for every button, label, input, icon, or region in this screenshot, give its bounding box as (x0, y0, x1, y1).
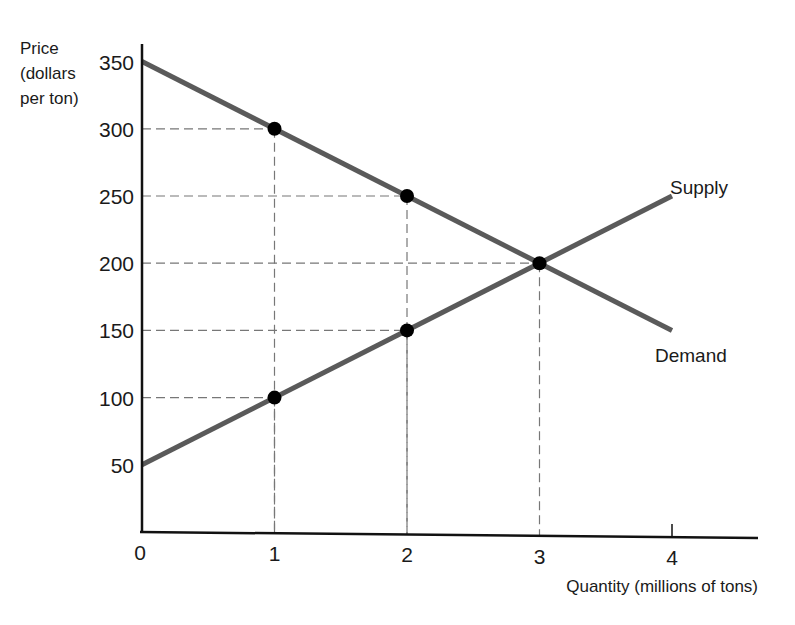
y-tick-label: 350 (99, 51, 134, 74)
supply-label: Supply (670, 177, 729, 198)
data-point (400, 189, 414, 203)
y-tick-label: 50 (111, 454, 134, 477)
y-axis-label-line3: per ton) (20, 89, 79, 108)
x-axis-label: Quantity (millions of tons) (566, 577, 758, 596)
y-tick-label: 100 (99, 387, 134, 410)
y-axis-label-line1: Price (20, 39, 59, 58)
x-tick-label: 1 (269, 542, 281, 565)
data-point (268, 122, 282, 136)
y-tick-label: 150 (99, 319, 134, 342)
dashed-guide-lines (142, 129, 540, 536)
y-axis-label-line2: (dollars (20, 64, 76, 83)
data-point (268, 391, 282, 405)
demand-label: Demand (655, 345, 727, 366)
axes (140, 44, 758, 538)
x-axis (140, 532, 758, 538)
y-tick-label: 250 (99, 185, 134, 208)
y-tick-label: 200 (99, 252, 134, 275)
x-tick-label: 2 (401, 543, 413, 566)
x-tick-label: 4 (666, 546, 678, 569)
x-tick-label: 0 (134, 541, 146, 564)
data-point (400, 323, 414, 337)
data-point (533, 256, 547, 270)
x-tick-label: 3 (534, 545, 546, 568)
y-tick-label: 300 (99, 118, 134, 141)
supply-demand-chart: 5010015020025030035001234 Price (dollars… (0, 0, 795, 625)
